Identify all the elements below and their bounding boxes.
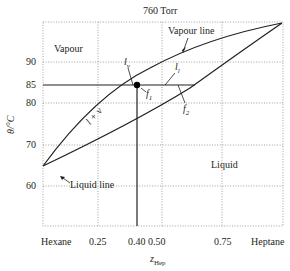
x-tick-hexane: Hexane [41, 237, 72, 247]
lv-label: lv [124, 57, 130, 71]
f1-label: f1 [146, 89, 152, 103]
y-tick-70: 70 [26, 140, 36, 150]
x-tick-0.75: 0.75 [214, 237, 232, 247]
liquid-line-label: Liquid line [70, 180, 114, 190]
vapour-line-label: Vapour line [168, 26, 214, 36]
y-tick-60: 60 [26, 181, 36, 191]
chart-title: 760 Torr [143, 6, 177, 16]
x-tick-heptane: Heptane [251, 237, 284, 247]
x-tick-0.50: 0.50 [148, 237, 166, 247]
x-tick-0.25: 0.25 [89, 237, 107, 247]
x-axis-label: zHep [150, 254, 166, 268]
y-tick-80: 80 [26, 98, 36, 108]
x-tick-0.40: 0.40 [128, 237, 146, 247]
feed-point-f1 [134, 82, 140, 88]
ll-label: ll [175, 62, 180, 76]
region-liquid-label: Liquid [211, 160, 238, 170]
y-tick-85: 85 [26, 80, 36, 90]
y-axis-label: θ/°C [6, 116, 16, 134]
f2-label: f2 [183, 104, 189, 118]
region-vapour-label: Vapour [54, 44, 83, 54]
y-tick-90: 90 [26, 57, 36, 67]
phase-diagram [0, 0, 290, 271]
